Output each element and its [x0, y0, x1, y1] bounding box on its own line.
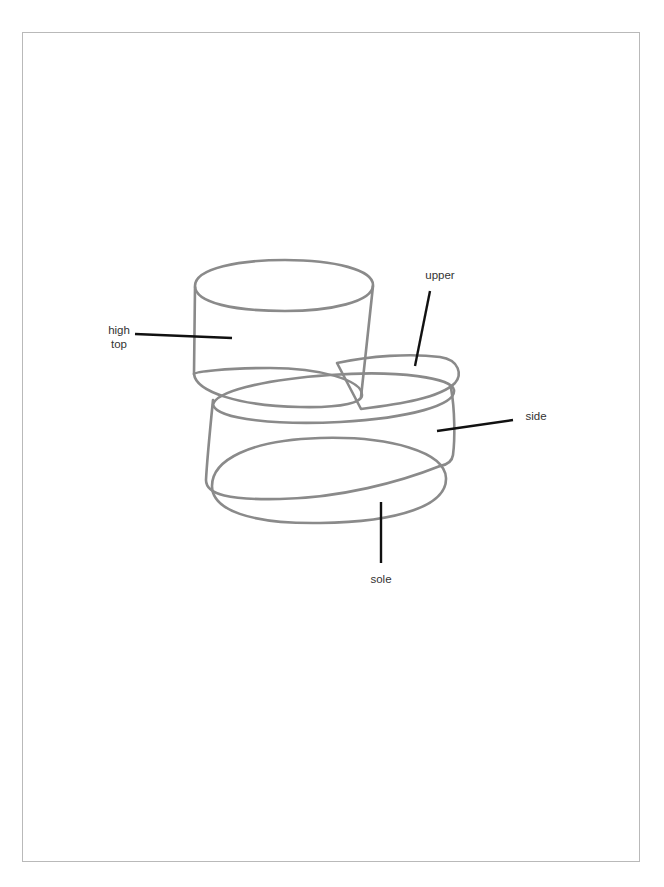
- side-leader: [437, 420, 513, 431]
- label-side: side: [521, 409, 551, 423]
- high-top-right-wall: [361, 286, 373, 397]
- label-upper: upper: [418, 268, 462, 282]
- high-top-left-wall: [194, 287, 195, 374]
- sole-outline: [212, 438, 446, 523]
- side-top-rim: [213, 373, 454, 422]
- high-top-leader: [135, 334, 232, 338]
- label-high-top: high top: [104, 323, 134, 351]
- boot-sketch: [0, 0, 664, 887]
- high-top-rim: [195, 260, 373, 311]
- label-sole: sole: [366, 572, 396, 586]
